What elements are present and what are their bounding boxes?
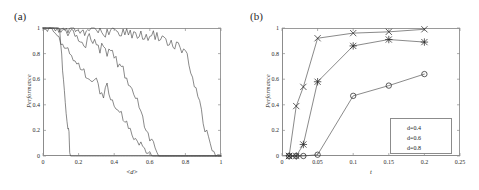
- legend-entry-d04[interactable]: d=0.4: [396, 123, 421, 132]
- y-tick-label: 0.8: [25, 51, 40, 57]
- marker-star: [350, 42, 357, 49]
- x-tick-label: 0.2: [75, 159, 83, 165]
- x-tick-label: 1: [220, 159, 223, 165]
- legend-entry-d08[interactable]: d=0.8: [396, 143, 421, 152]
- panel-a-x-axis-label: <d>: [112, 168, 152, 175]
- marker-star: [314, 78, 321, 85]
- marker-star: [421, 38, 428, 45]
- x-tick-label: 0.6: [146, 159, 154, 165]
- legend-label: d=0.8: [407, 145, 421, 151]
- y-tick-label: 0: [25, 153, 40, 159]
- x-tick-label: 0: [42, 159, 45, 165]
- y-tick-label: 0.6: [264, 76, 279, 82]
- series-line-curve-1: [43, 28, 221, 156]
- y-tick-label: 1: [264, 25, 279, 31]
- y-tick-label: 0.2: [25, 127, 40, 133]
- x-tick-label: 0.15: [384, 159, 395, 165]
- legend-label: d=0.6: [407, 135, 421, 141]
- y-tick-label: 0.6: [25, 76, 40, 82]
- x-tick-label: 0.25: [455, 159, 466, 165]
- legend-entry-d06[interactable]: d=0.6: [396, 133, 421, 142]
- series-line-curve-2: [43, 28, 221, 156]
- x-tick-label: 0: [281, 159, 284, 165]
- y-tick-label: 0: [264, 153, 279, 159]
- y-tick-label: 1: [25, 25, 40, 31]
- marker-x: [300, 84, 306, 90]
- x-tick-label: 0.4: [110, 159, 118, 165]
- x-tick-label: 0.2: [421, 159, 429, 165]
- figure-container: (a) Performance <d> 00.20.40.60.8100.20.…: [0, 0, 479, 190]
- y-tick-label: 0.4: [264, 102, 279, 108]
- y-tick-label: 0.2: [264, 127, 279, 133]
- y-tick-label: 0.8: [264, 51, 279, 57]
- panel-b: (b) Performance t 00.050.10.150.20.2500.…: [240, 0, 479, 190]
- series-line-curve-4: [43, 28, 221, 156]
- series-line-curve-3: [43, 28, 221, 156]
- x-tick-label: 0.8: [182, 159, 190, 165]
- marker-star: [385, 36, 392, 43]
- panel-b-x-axis-label: t: [351, 168, 391, 175]
- x-tick-label: 0.05: [312, 159, 323, 165]
- marker-star: [300, 141, 307, 148]
- x-tick-label: 0.1: [349, 159, 357, 165]
- legend-label: d=0.4: [407, 125, 421, 131]
- panel-a: (a) Performance <d> 00.20.40.60.8100.20.…: [0, 0, 239, 190]
- y-tick-label: 0.4: [25, 102, 40, 108]
